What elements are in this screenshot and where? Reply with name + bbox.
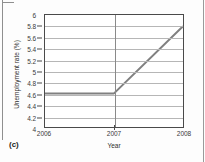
gridline-horizontal bbox=[45, 26, 183, 27]
y-tick-mark bbox=[37, 49, 42, 50]
gridline-horizontal bbox=[45, 49, 183, 50]
gridline-horizontal bbox=[45, 72, 183, 73]
y-tick-mark bbox=[37, 106, 42, 107]
y-tick-mark bbox=[37, 94, 42, 95]
y-tick-mark bbox=[37, 83, 42, 84]
gridline-horizontal bbox=[45, 95, 183, 96]
figure-panel: 44.24.44.64.855.25.45.65.86 Unemployment… bbox=[0, 0, 205, 162]
y-tick-label: 5 bbox=[32, 69, 36, 76]
panel-caption-label: (c) bbox=[9, 140, 19, 149]
y-tick-label: 6 bbox=[32, 12, 36, 19]
y-tick-label: 4 bbox=[32, 126, 36, 133]
page-border-top bbox=[2, 2, 14, 3]
y-tick-label: 5.8 bbox=[27, 23, 36, 30]
y-tick-label: 4.6 bbox=[27, 91, 36, 98]
y-axis-ticks: 44.24.44.64.855.25.45.65.86 bbox=[0, 14, 42, 128]
series-line-chart bbox=[45, 15, 183, 127]
gridline-horizontal bbox=[45, 83, 183, 84]
y-tick-label: 5.2 bbox=[27, 57, 36, 64]
gridline-horizontal bbox=[45, 61, 183, 62]
page-border-right bbox=[203, 0, 204, 162]
y-tick-label: 4.4 bbox=[27, 103, 36, 110]
x-axis-title: Year bbox=[44, 142, 184, 149]
y-tick-label: 4.8 bbox=[27, 80, 36, 87]
gridline-horizontal bbox=[45, 38, 183, 39]
x-tick-mark bbox=[114, 125, 115, 130]
y-tick-label: 5.4 bbox=[27, 46, 36, 53]
x-axis-ticks: 200620072008 bbox=[44, 130, 184, 142]
gridline-horizontal bbox=[45, 118, 183, 119]
x-tick-label: 2006 bbox=[37, 130, 51, 137]
y-axis-title: Unemployment rate (%) bbox=[13, 25, 20, 125]
y-tick-label: 5.6 bbox=[27, 34, 36, 41]
y-tick-mark bbox=[37, 26, 42, 27]
gridline-vertical bbox=[115, 15, 116, 127]
x-tick-label: 2007 bbox=[107, 130, 121, 137]
y-tick-mark bbox=[37, 72, 42, 73]
y-tick-mark bbox=[37, 37, 42, 38]
y-tick-mark bbox=[37, 60, 42, 61]
y-tick-label: 4.2 bbox=[27, 114, 36, 121]
plot-area bbox=[44, 14, 184, 128]
gridline-horizontal bbox=[45, 106, 183, 107]
x-tick-label: 2008 bbox=[177, 130, 191, 137]
y-tick-mark bbox=[37, 117, 42, 118]
